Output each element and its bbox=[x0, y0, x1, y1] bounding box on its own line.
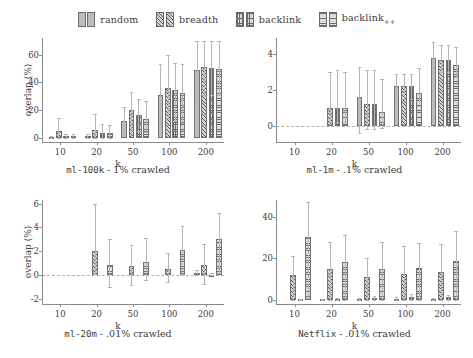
x-tick-mark bbox=[332, 142, 333, 145]
error-bar-cap bbox=[402, 246, 406, 247]
x-tick-label-ml-1m-10: 10 bbox=[289, 147, 300, 157]
error-bar-cap bbox=[217, 41, 221, 42]
legend-entry-backlinkpp: backlink++ bbox=[319, 12, 395, 27]
error-bar-cap bbox=[410, 99, 414, 100]
error-bar-cap bbox=[365, 300, 369, 301]
chart-panel-netflix: 02040102050100200kNetflix - .01% crawled bbox=[236, 192, 473, 358]
error-bar-cap bbox=[417, 106, 421, 107]
error-bar-line bbox=[411, 74, 412, 99]
error-bar-line bbox=[168, 55, 169, 119]
x-tick-mark bbox=[169, 142, 170, 145]
error-bar-line bbox=[330, 72, 331, 122]
error-bar-cap bbox=[202, 284, 206, 285]
x-tick-label-ml-1m-50: 50 bbox=[363, 147, 374, 157]
x-tick-label-ml-100k-100: 100 bbox=[161, 147, 177, 157]
error-bar-line bbox=[433, 42, 434, 72]
error-bar-cap bbox=[64, 134, 68, 135]
chart-panel-ml-100k: overlap (%)0204060102050100200kml-100k -… bbox=[0, 32, 236, 187]
error-bar-cap bbox=[336, 70, 340, 71]
error-bar-line bbox=[146, 101, 147, 132]
legend-entry-random: random bbox=[78, 12, 139, 27]
error-bar-cap bbox=[166, 118, 170, 119]
error-bar-cap bbox=[432, 298, 436, 299]
legend-swatch-breadth-dark bbox=[166, 12, 174, 27]
x-tick-label-ml-20m-10: 10 bbox=[55, 309, 66, 319]
legend-swatch-random-light bbox=[78, 12, 86, 27]
x-tick-mark bbox=[97, 304, 98, 307]
error-bar-cap bbox=[93, 138, 97, 139]
error-bar-cap bbox=[447, 295, 451, 296]
y-tick-label-ml-1m-4: 4 bbox=[247, 49, 276, 59]
error-bar-cap bbox=[365, 129, 369, 130]
error-bar-cap bbox=[291, 256, 295, 257]
error-bar-line bbox=[345, 235, 346, 299]
error-bar-line bbox=[456, 231, 457, 300]
error-bar-cap bbox=[86, 138, 90, 139]
error-bar-cap bbox=[202, 95, 206, 96]
error-bar-cap bbox=[321, 300, 325, 301]
error-bar-cap bbox=[291, 300, 295, 301]
error-bar-cap bbox=[93, 274, 97, 275]
error-bar-cap bbox=[328, 242, 332, 243]
x-tick-label-ml-20m-200: 200 bbox=[198, 309, 214, 319]
legend-label-backlinkpp: backlink++ bbox=[342, 12, 396, 26]
error-bar-line bbox=[367, 258, 368, 300]
error-bar-cap bbox=[373, 300, 377, 301]
x-tick-label-netflix-200: 200 bbox=[434, 309, 450, 319]
error-bar-cap bbox=[417, 300, 421, 301]
plot-area-ml-20m: overlap (%)-20246102050100200k bbox=[0, 192, 236, 324]
error-bar-cap bbox=[395, 99, 399, 100]
error-bar-cap bbox=[130, 92, 134, 93]
error-bar-cap bbox=[365, 70, 369, 71]
error-bar-cap bbox=[328, 300, 332, 301]
error-bar-cap bbox=[72, 134, 76, 135]
error-bar-cap bbox=[373, 70, 377, 71]
error-bar-cap bbox=[417, 68, 421, 69]
y-tick-label-ml-100k-0: 0 bbox=[13, 133, 42, 143]
error-bar-cap bbox=[57, 138, 61, 139]
error-bar-cap bbox=[410, 300, 414, 301]
zero-reference-line bbox=[276, 126, 461, 127]
error-bar-cap bbox=[402, 99, 406, 100]
error-bar-cap bbox=[64, 138, 68, 139]
x-tick-mark bbox=[332, 304, 333, 307]
error-bar-cap bbox=[108, 138, 112, 139]
legend-swatch-breadth-light bbox=[156, 12, 164, 27]
error-bar-cap bbox=[343, 72, 347, 73]
error-bar-cap bbox=[181, 123, 185, 124]
error-bar-line bbox=[160, 64, 161, 126]
legend-entry-backlink: backlink bbox=[236, 12, 301, 27]
error-bar-line bbox=[182, 226, 183, 274]
error-bar-cap bbox=[432, 300, 436, 301]
error-bar-cap bbox=[202, 244, 206, 245]
error-bar-cap bbox=[195, 96, 199, 97]
caption-crawl-rate: - 1% crawled bbox=[104, 164, 170, 175]
error-bar-cap bbox=[402, 74, 406, 75]
error-bar-cap bbox=[447, 300, 451, 301]
y-tick-label-ml-100k-20: 20 bbox=[13, 105, 42, 115]
error-bar-cap bbox=[86, 134, 90, 135]
panel-caption-ml-100k: ml-100k - 1% crawled bbox=[0, 164, 236, 175]
legend-label-backlink: backlink bbox=[259, 14, 301, 25]
y-axis-line bbox=[276, 200, 277, 304]
error-bar-cap bbox=[50, 136, 54, 137]
caption-dataset-name: ml-1m bbox=[307, 165, 334, 175]
plot-area-ml-1m: 024102050100200k bbox=[236, 32, 473, 164]
error-bar-line bbox=[419, 68, 420, 106]
error-bar-cap bbox=[447, 45, 451, 46]
error-bar-cap bbox=[328, 72, 332, 73]
error-bar-line bbox=[204, 41, 205, 95]
x-tick-mark bbox=[60, 142, 61, 145]
error-bar-cap bbox=[373, 129, 377, 130]
error-bar-cap bbox=[181, 274, 185, 275]
error-bar-cap bbox=[373, 296, 377, 297]
x-tick-label-ml-20m-100: 100 bbox=[161, 309, 177, 319]
error-bar-line bbox=[58, 118, 59, 137]
error-bar-cap bbox=[181, 226, 185, 227]
error-bar-cap bbox=[410, 74, 414, 75]
x-tick-mark bbox=[406, 142, 407, 145]
error-bar-line bbox=[419, 243, 420, 300]
error-bar-cap bbox=[210, 275, 214, 276]
error-bar-cap bbox=[122, 131, 126, 132]
error-bar-cap bbox=[108, 287, 112, 288]
